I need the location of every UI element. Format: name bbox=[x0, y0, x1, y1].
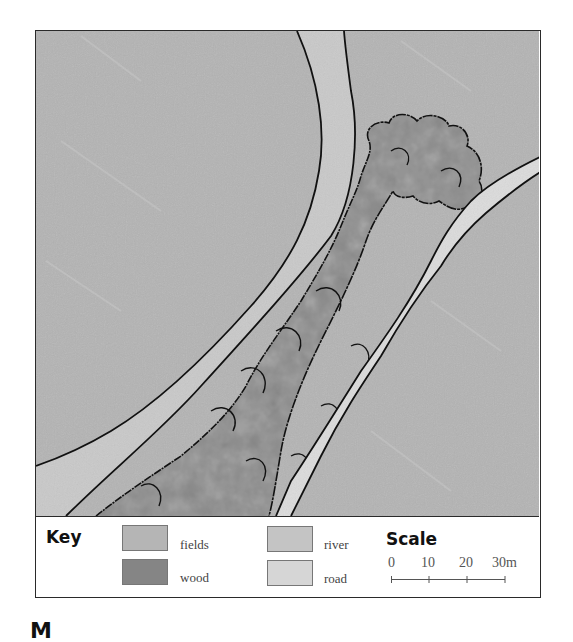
fields-swatch bbox=[122, 525, 168, 551]
wood-label: wood bbox=[180, 570, 209, 586]
map-frame: Key fields wood river road Scale 0 10 20… bbox=[35, 30, 541, 598]
scale-title: Scale bbox=[386, 529, 437, 549]
road-swatch bbox=[267, 560, 313, 586]
fields-label: fields bbox=[180, 537, 209, 553]
road-label: road bbox=[324, 571, 347, 587]
key-title: Key bbox=[46, 527, 82, 547]
map-area bbox=[36, 31, 539, 517]
scale-tick-0: 0 bbox=[388, 555, 395, 571]
map-legend: Key fields wood river road Scale 0 10 20… bbox=[36, 517, 539, 597]
river-swatch bbox=[267, 526, 313, 552]
scale-tick-20: 20 bbox=[459, 555, 473, 571]
wood-swatch bbox=[122, 559, 168, 585]
river-label: river bbox=[324, 537, 349, 553]
caption-text: M bbox=[30, 618, 52, 642]
scale-bar bbox=[391, 576, 506, 583]
map-drawing bbox=[36, 31, 539, 516]
scale-tick-30m: 30m bbox=[492, 555, 517, 571]
scale-tick-10: 10 bbox=[421, 555, 435, 571]
